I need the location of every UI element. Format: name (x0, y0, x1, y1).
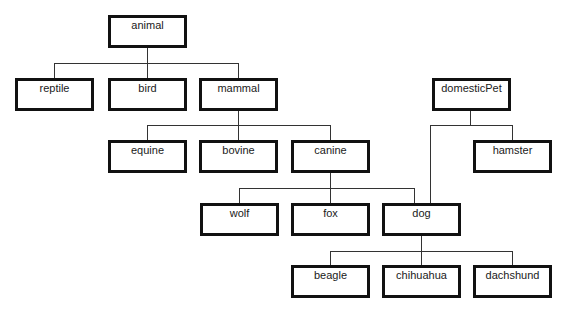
node-reptile[interactable]: reptile (15, 78, 94, 111)
node-canine[interactable]: canine (291, 140, 370, 173)
connector-line (239, 188, 415, 189)
connector-line (430, 125, 513, 126)
connector-line (414, 188, 415, 203)
node-domesticpet[interactable]: domesticPet (432, 78, 511, 111)
node-label: fox (294, 207, 367, 220)
connector-line (147, 63, 148, 78)
connector-line (330, 125, 331, 140)
connector-line (430, 125, 431, 203)
node-beagle[interactable]: beagle (291, 265, 370, 298)
node-dog[interactable]: dog (382, 203, 461, 236)
node-fox[interactable]: fox (291, 203, 370, 236)
node-chihuahua[interactable]: chihuahua (382, 265, 461, 298)
node-label: bird (111, 82, 184, 95)
node-animal[interactable]: animal (108, 15, 187, 48)
node-label: equine (111, 144, 184, 157)
connector-line (239, 188, 240, 203)
connector-line (470, 110, 471, 125)
node-label: bovine (202, 144, 275, 157)
connector-line (330, 251, 331, 265)
node-label: mammal (202, 82, 275, 95)
node-label: animal (111, 19, 184, 32)
connector-line (238, 125, 239, 140)
node-bird[interactable]: bird (108, 78, 187, 111)
node-label: beagle (294, 269, 367, 282)
node-label: dachshund (476, 269, 549, 282)
node-wolf[interactable]: wolf (200, 203, 279, 236)
class-hierarchy-diagram: animal reptile bird mammal domesticPet e… (0, 0, 567, 315)
node-label: reptile (18, 82, 91, 95)
node-label: hamster (476, 144, 549, 157)
node-hamster[interactable]: hamster (473, 140, 552, 173)
connector-line (238, 110, 239, 125)
connector-line (330, 251, 513, 252)
connector-line (147, 125, 331, 126)
node-label: canine (294, 144, 367, 157)
node-bovine[interactable]: bovine (199, 140, 278, 173)
connector-line (54, 63, 55, 78)
node-label: dog (385, 207, 458, 220)
connector-line (421, 235, 422, 265)
connector-line (147, 125, 148, 140)
node-equine[interactable]: equine (108, 140, 187, 173)
node-mammal[interactable]: mammal (199, 78, 278, 111)
node-label: chihuahua (385, 269, 458, 282)
connector-line (512, 251, 513, 265)
connector-line (238, 63, 239, 78)
connector-line (147, 47, 148, 63)
node-label: domesticPet (435, 82, 508, 95)
node-label: wolf (203, 207, 276, 220)
connector-line (512, 125, 513, 140)
node-dachshund[interactable]: dachshund (473, 265, 552, 298)
